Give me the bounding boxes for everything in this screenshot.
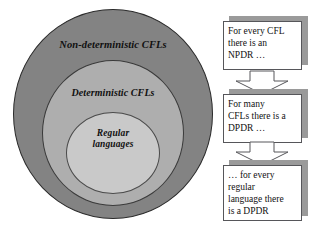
ring-label-deterministic-cfls: Deterministic CFLs <box>42 87 184 98</box>
flow-chart: For every CFL there is an NPDR … For man… <box>219 0 317 228</box>
ring-label-regular-languages: Regular languages <box>66 128 160 149</box>
venn-diagram: Non-deterministic CFLs Deterministic CFL… <box>0 0 220 228</box>
flow-node-npdr: For every CFL there is an NPDR … <box>223 21 302 70</box>
flow-node-dpdr-text: For many CFLs there is a DPDR … <box>223 94 302 136</box>
ring-label-non-deterministic-cfls: Non-deterministic CFLs <box>13 39 213 51</box>
flow-node-regular-text: … for every regular language there is a … <box>223 165 302 219</box>
flow-node-npdr-text: For every CFL there is an NPDR … <box>223 21 302 63</box>
diagram-canvas: Non-deterministic CFLs Deterministic CFL… <box>0 0 317 228</box>
ring-regular-languages <box>66 112 160 194</box>
flow-node-regular: … for every regular language there is a … <box>223 165 302 221</box>
flow-node-dpdr: For many CFLs there is a DPDR … <box>223 94 302 143</box>
